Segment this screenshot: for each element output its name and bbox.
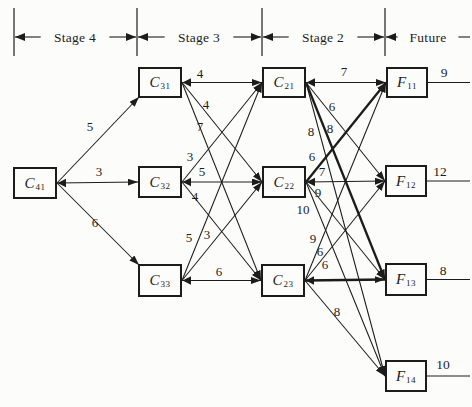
node-label-main: C [24,176,34,191]
edge-label-C31-C23: 7 [197,119,204,134]
stage-label: Stage 3 [178,30,220,45]
node-label-main: C [149,273,159,288]
node-label-subscript: 22 [285,182,295,191]
edge-label-C23-F14: 8 [334,304,341,319]
node-label-subscript: 13 [406,279,416,288]
node-F13: F13 [385,263,427,296]
node-label-main: F [396,272,405,287]
node-C21: C21 [262,67,306,98]
edge-label-C41-C32: 3 [96,164,103,179]
edge-C41-C32 [57,182,138,183]
node-label-subscript: 41 [36,183,46,192]
edge-label-C32-C23: 4 [192,189,199,204]
edge-label-C33-C22: 3 [204,227,211,242]
node-label-main: C [272,273,282,288]
node-C23: C23 [261,264,305,297]
future-value-label-F14: 10 [436,357,450,372]
left-arrowhead-icon [138,33,148,41]
node-C22: C22 [262,166,306,198]
node-C41: C41 [13,167,57,199]
node-label-subscript: 33 [161,280,171,289]
edge-label-C31-C21: 4 [197,66,204,81]
node-F14: F14 [385,360,427,392]
node-C32: C32 [138,166,182,198]
stage-label: Stage 4 [54,30,96,45]
stage-network-diagram: Stage 4Stage 3Stage 2Future5364473545367… [0,0,472,407]
node-label-subscript: 11 [407,82,417,91]
edge-label-C21-F11: 7 [341,64,348,79]
right-arrowhead-icon [126,33,136,41]
edge-label-C21-F12: 6 [329,99,336,114]
edge-C21-F14 [306,83,385,377]
node-label-subscript: 21 [285,82,295,91]
edge-label-C22-F14: 10 [297,202,310,217]
edge-label-C21-F13: 8 [327,121,334,136]
node-label-main: C [149,75,159,90]
node-label-main: F [397,75,406,90]
edge-label-C41-C33: 6 [92,215,99,230]
node-label-subscript: 12 [406,181,416,190]
node-label-main: F [396,369,405,384]
stage-label: Future [409,30,446,45]
left-arrowhead-icon [15,33,25,41]
node-F11: F11 [386,67,428,98]
edge-label-C31-C22: 4 [203,97,210,112]
edge-label-C22-F12: 7 [319,164,326,179]
node-C31: C31 [138,67,182,98]
node-label-subscript: 23 [284,280,294,289]
node-F12: F12 [385,165,427,197]
future-value-label-F11: 9 [441,65,448,80]
node-label-main: C [273,75,283,90]
edge-label-C41-C31: 5 [87,119,94,134]
node-label-subscript: 32 [161,182,171,191]
edge-label-C22-F13: 9 [315,185,322,200]
future-value-label-F12: 12 [433,164,447,179]
edge-label-C32-C21: 3 [187,149,194,164]
edge-label-C23-F13: 6 [322,257,329,272]
stage-label: Stage 2 [302,30,344,45]
edge-label-C23-F11: 9 [310,231,317,246]
arrow-origin-wedge [58,179,67,187]
node-label-subscript: 31 [161,82,171,91]
right-arrowhead-icon [251,33,261,41]
diagram-svg: Stage 4Stage 3Stage 2Future5364473545367… [0,0,472,407]
left-arrowhead-icon [386,33,396,41]
edge-label-C21-F14: 8 [308,124,315,139]
edge-label-C33-C23: 6 [216,264,223,279]
node-label-main: C [149,175,159,190]
right-arrowhead-icon [374,33,384,41]
node-label-main: C [273,175,283,190]
node-label-subscript: 14 [406,376,416,385]
edge-C23-F13 [305,280,385,281]
node-label-main: F [396,174,405,189]
future-value-label-F13: 8 [440,263,447,278]
edge-label-C22-F11: 6 [309,149,316,164]
edge-label-C33-C21: 5 [186,230,193,245]
edge-C23-F14 [305,281,385,377]
edge-label-C32-C22: 5 [199,164,206,179]
left-arrowhead-icon [263,33,273,41]
node-C33: C33 [138,264,182,297]
